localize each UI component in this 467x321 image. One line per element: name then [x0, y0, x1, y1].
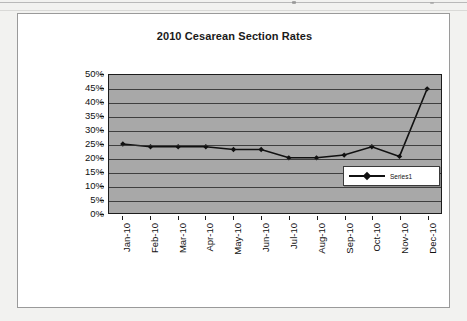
scan-artifact-line-secondary: [0, 10, 467, 11]
series-line-series1: [109, 75, 441, 213]
x-axis-tick-label: Oct-10: [372, 223, 382, 252]
scan-artifact-speck: [430, 2, 434, 4]
y-axis-tick-mark: [100, 158, 104, 159]
data-point-marker: [258, 147, 263, 152]
gridline: [109, 145, 441, 146]
x-axis-tick-mark: [233, 216, 234, 220]
x-axis-tick-label: Sep-10: [345, 223, 355, 254]
x-axis-tick-label: Jan-10: [122, 223, 132, 252]
x-axis-tick-mark: [178, 216, 179, 220]
y-axis-tick-mark: [100, 144, 104, 145]
legend-entry-label: Series1: [390, 173, 412, 180]
x-axis-tick-mark: [428, 216, 429, 220]
x-axis-tick-label: Mar-10: [178, 223, 188, 253]
gridline: [109, 117, 441, 118]
gridline: [109, 159, 441, 160]
scan-artifact-line-top: [0, 2, 467, 3]
gridline: [109, 187, 441, 188]
y-axis-tick-mark: [100, 74, 104, 75]
y-axis-tick-mark: [100, 214, 104, 215]
scan-artifact-speck: [292, 1, 296, 4]
x-axis-tick-label: Feb-10: [150, 223, 160, 253]
x-axis-tick-label: Aug-10: [317, 223, 327, 254]
chart-title: 2010 Cesarean Section Rates: [18, 30, 451, 42]
x-axis-tick-mark: [400, 216, 401, 220]
gridline: [109, 201, 441, 202]
y-axis-tick-mark: [100, 200, 104, 201]
x-axis-tick-mark: [205, 216, 206, 220]
plot-area: [108, 74, 442, 214]
y-axis-tick-mark: [100, 88, 104, 89]
x-axis-tick-mark: [261, 216, 262, 220]
y-axis-tick-mark: [100, 116, 104, 117]
y-axis-tick-mark: [100, 172, 104, 173]
x-axis-tick-mark: [150, 216, 151, 220]
line-diamond-marker-icon: [349, 171, 385, 181]
x-axis-tick-mark: [345, 216, 346, 220]
y-axis-tick-mark: [100, 130, 104, 131]
x-axis-tick-label: May-10: [233, 223, 243, 255]
x-axis-tick-mark: [289, 216, 290, 220]
x-axis-tick-label: Jun-10: [261, 223, 271, 252]
gridline: [109, 103, 441, 104]
y-axis-tick-mark: [100, 102, 104, 103]
y-axis: 50%45%40%35%30%25%20%15%10%5%0%: [58, 74, 104, 214]
x-axis-tick-label: Dec-10: [428, 223, 438, 254]
x-axis-tick-label: Nov-10: [400, 223, 410, 254]
x-axis-tick-mark: [372, 216, 373, 220]
x-axis-tick-mark: [317, 216, 318, 220]
x-axis-tick-label: Jul-10: [289, 223, 299, 249]
series-line: [123, 89, 427, 158]
data-point-marker: [231, 147, 236, 152]
x-axis-tick-mark: [122, 216, 123, 220]
x-axis: Jan-10Feb-10Mar-10Apr-10May-10Jun-10Jul-…: [108, 216, 442, 296]
gridline: [109, 89, 441, 90]
x-axis-tick-label: Apr-10: [205, 223, 215, 252]
gridline: [109, 131, 441, 132]
chart-legend[interactable]: Series1: [343, 166, 440, 186]
y-axis-tick-mark: [100, 186, 104, 187]
chart-frame: 2010 Cesarean Section Rates 50%45%40%35%…: [17, 13, 450, 308]
data-point-marker: [341, 152, 346, 157]
